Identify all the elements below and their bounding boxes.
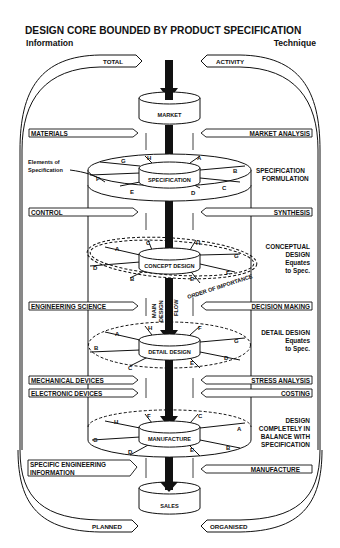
svg-text:C: C xyxy=(198,413,203,419)
input-control: CONTROL xyxy=(31,209,63,216)
svg-text:FLOW: FLOW xyxy=(173,299,179,316)
stage-market: MARKET xyxy=(139,92,200,124)
svg-text:H: H xyxy=(196,240,200,246)
diagram-title: DESIGN CORE BOUNDED BY PRODUCT SPECIFICA… xyxy=(25,25,301,36)
input-market-analysis: MARKET ANALYSIS xyxy=(249,130,310,137)
svg-text:MAIN: MAIN xyxy=(151,304,157,318)
svg-text:A: A xyxy=(115,331,120,337)
input-costing: COSTING xyxy=(281,390,310,397)
svg-text:F: F xyxy=(226,270,230,276)
svg-text:DESIGN: DESIGN xyxy=(285,417,310,424)
svg-text:G: G xyxy=(234,338,239,344)
svg-text:Equates: Equates xyxy=(285,337,310,345)
svg-text:A: A xyxy=(115,246,120,252)
svg-text:B: B xyxy=(226,445,231,451)
svg-text:SPECIFICATION: SPECIFICATION xyxy=(256,167,305,174)
svg-text:G: G xyxy=(234,253,239,259)
svg-text:C: C xyxy=(222,185,227,191)
svg-text:E: E xyxy=(190,360,194,366)
svg-text:E: E xyxy=(190,276,194,282)
boundary-label-total: TOTAL xyxy=(103,58,123,65)
svg-text:C: C xyxy=(146,240,151,246)
svg-text:G: G xyxy=(121,158,126,164)
svg-text:SPECIFICATION: SPECIFICATION xyxy=(148,177,191,183)
svg-text:B: B xyxy=(94,345,99,351)
input-specific-engineering-line2: INFORMATION xyxy=(30,469,75,476)
input-mechanical-devices: MECHANICAL DEVICES xyxy=(31,377,104,384)
svg-text:BALANCE WITH: BALANCE WITH xyxy=(261,433,311,440)
svg-text:to Spec.: to Spec. xyxy=(285,267,310,275)
svg-text:DETAIL DESIGN: DETAIL DESIGN xyxy=(148,349,191,355)
svg-text:SALES: SALES xyxy=(160,503,179,509)
input-engineering-science: ENGINEERING SCIENCE xyxy=(31,303,107,310)
input-synthesis: SYNTHESIS xyxy=(274,209,311,216)
input-decision-making: DECISION MAKING xyxy=(251,303,310,310)
svg-text:D: D xyxy=(93,265,98,271)
svg-text:DESIGN: DESIGN xyxy=(285,251,310,258)
svg-text:Elements of: Elements of xyxy=(28,159,60,165)
input-specific-engineering: SPECIFIC ENGINEERING xyxy=(30,461,106,468)
svg-text:A: A xyxy=(197,155,202,161)
stage-sales: SALES xyxy=(139,478,200,514)
input-electronic-devices: ELECTRONIC DEVICES xyxy=(31,390,103,397)
subtitle-technique: Technique xyxy=(274,38,317,48)
svg-text:CONCEPT DESIGN: CONCEPT DESIGN xyxy=(144,263,194,269)
order-of-importance-label: ORDER OF IMPORTANCE xyxy=(186,273,253,300)
design-core-diagram: DESIGN CORE BOUNDED BY PRODUCT SPECIFICA… xyxy=(0,0,340,548)
svg-text:Equates: Equates xyxy=(285,259,310,267)
boundary-label-organised: ORGANISED xyxy=(210,523,248,530)
svg-text:MANUFACTURE: MANUFACTURE xyxy=(148,436,191,442)
svg-text:G: G xyxy=(93,437,98,443)
boundary-label-activity: ACTIVITY xyxy=(216,58,245,65)
stage-specification: SPECIFICATION HA BC DE FG xyxy=(88,154,251,201)
svg-text:H: H xyxy=(148,325,152,331)
svg-text:FORMULATION: FORMULATION xyxy=(262,175,309,182)
svg-text:E: E xyxy=(190,447,194,453)
svg-text:A: A xyxy=(237,426,242,432)
svg-text:D: D xyxy=(128,449,133,455)
svg-text:SPECIFICATION: SPECIFICATION xyxy=(261,441,310,448)
input-materials: MATERIALS xyxy=(31,130,69,137)
svg-text:H: H xyxy=(114,419,118,425)
input-stress-analysis: STRESS ANALYSIS xyxy=(251,377,311,384)
svg-text:MARKET: MARKET xyxy=(158,112,183,118)
svg-text:DETAIL DESIGN: DETAIL DESIGN xyxy=(261,329,310,336)
svg-text:E: E xyxy=(130,189,134,195)
svg-text:F: F xyxy=(198,325,202,331)
svg-text:F: F xyxy=(147,413,151,419)
svg-text:DESIGN: DESIGN xyxy=(158,301,164,322)
boundary-label-planned: PLANNED xyxy=(92,523,122,530)
input-manufacture: MANUFACTURE xyxy=(251,466,301,473)
svg-text:CONCEPTUAL: CONCEPTUAL xyxy=(266,243,310,250)
svg-text:D: D xyxy=(191,190,196,196)
svg-text:B: B xyxy=(130,276,135,282)
svg-text:C: C xyxy=(128,365,133,371)
svg-text:D: D xyxy=(224,355,229,361)
svg-text:to Spec.: to Spec. xyxy=(285,345,310,353)
svg-text:Specification: Specification xyxy=(28,167,63,173)
svg-text:H: H xyxy=(147,155,151,161)
subtitle-information: Information xyxy=(26,38,73,48)
svg-text:B: B xyxy=(233,168,238,174)
svg-text:COMPLETELY IN: COMPLETELY IN xyxy=(259,425,311,432)
